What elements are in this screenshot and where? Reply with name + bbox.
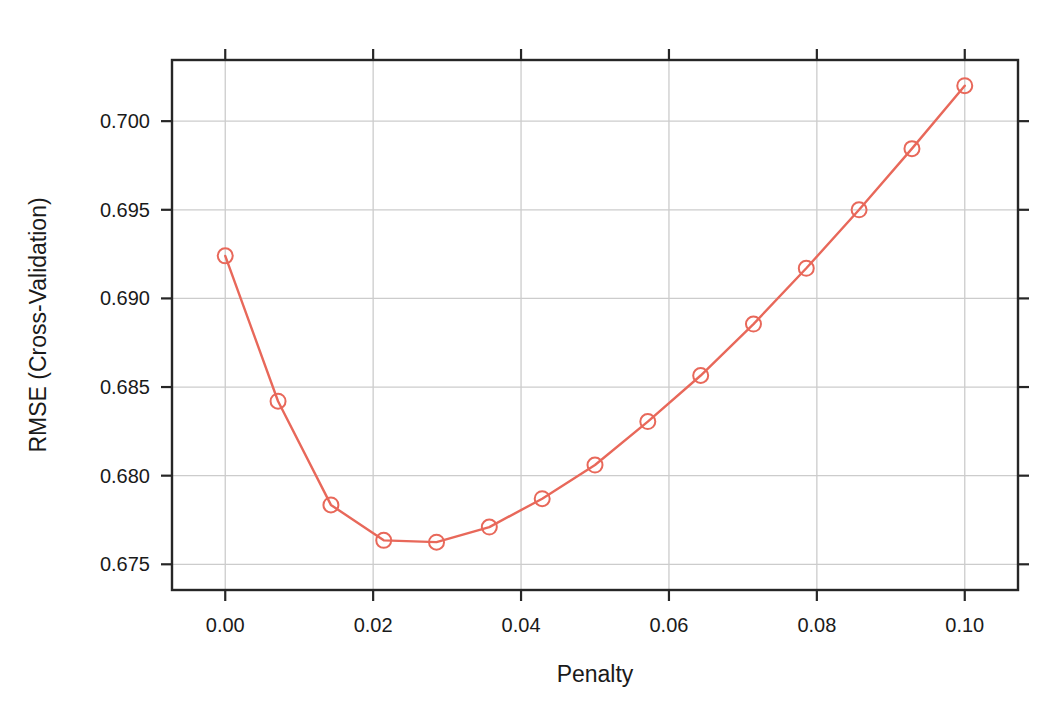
y-tick-label-4: 0.695 xyxy=(100,199,150,221)
x-tick-label-2: 0.04 xyxy=(502,614,541,636)
x-tick-label-3: 0.06 xyxy=(649,614,688,636)
chart-figure: 0.000.020.040.060.080.10 0.6750.6800.685… xyxy=(0,0,1042,725)
y-tick-label-3: 0.690 xyxy=(100,287,150,309)
y-tick-label-5: 0.700 xyxy=(100,110,150,132)
x-axis-title: Penalty xyxy=(557,661,634,687)
x-tick-label-5: 0.10 xyxy=(945,614,984,636)
y-tick-label-0: 0.675 xyxy=(100,553,150,575)
y-tick-label-2: 0.685 xyxy=(100,376,150,398)
x-tick-label-1: 0.02 xyxy=(354,614,393,636)
x-tick-label-4: 0.08 xyxy=(797,614,836,636)
y-tick-label-1: 0.680 xyxy=(100,465,150,487)
x-tick-label-0: 0.00 xyxy=(206,614,245,636)
rmse-vs-penalty-line-chart: 0.000.020.040.060.080.10 0.6750.6800.685… xyxy=(0,0,1042,725)
y-axis-title: RMSE (Cross-Validation) xyxy=(25,197,51,452)
